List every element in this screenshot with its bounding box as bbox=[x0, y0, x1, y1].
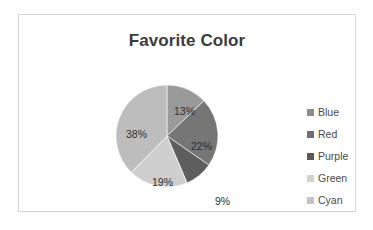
chart-legend: BlueRedPurpleGreenCyan bbox=[307, 101, 371, 211]
pie-label-purple: 9% bbox=[215, 195, 230, 207]
legend-label: Cyan bbox=[318, 195, 343, 206]
legend-label: Green bbox=[318, 173, 347, 184]
legend-item-green[interactable]: Green bbox=[307, 167, 371, 189]
pie-label-red: 22% bbox=[191, 140, 212, 152]
legend-swatch-icon-purple bbox=[307, 153, 314, 160]
chart-frame: Favorite Color 13% 22% 9% 19% 38% BlueRe… bbox=[18, 14, 356, 212]
legend-label: Purple bbox=[318, 151, 348, 162]
legend-item-cyan[interactable]: Cyan bbox=[307, 189, 371, 211]
legend-item-purple[interactable]: Purple bbox=[307, 145, 371, 167]
legend-item-blue[interactable]: Blue bbox=[307, 101, 371, 123]
legend-item-red[interactable]: Red bbox=[307, 123, 371, 145]
legend-swatch-icon-green bbox=[307, 175, 314, 182]
legend-swatch-icon-blue bbox=[307, 109, 314, 116]
legend-swatch-icon-cyan bbox=[307, 197, 314, 204]
legend-label: Blue bbox=[318, 107, 339, 118]
pie-label-cyan: 38% bbox=[126, 128, 147, 140]
pie-label-blue: 13% bbox=[174, 105, 195, 117]
legend-label: Red bbox=[318, 129, 337, 140]
chart-title: Favorite Color bbox=[19, 31, 355, 51]
legend-swatch-icon-red bbox=[307, 131, 314, 138]
pie-label-green: 19% bbox=[152, 176, 173, 188]
